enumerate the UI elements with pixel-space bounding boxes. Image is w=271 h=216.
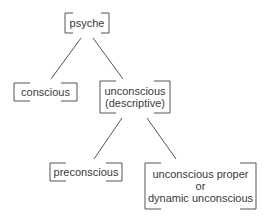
edge-unconscious-proper: [147, 118, 176, 159]
node-label: psyche: [70, 17, 105, 29]
edge-psyche-conscious: [51, 38, 81, 79]
node-preconscious: preconscious: [50, 166, 122, 178]
node-label: preconscious: [54, 166, 119, 178]
node-label: unconscious: [100, 85, 170, 97]
edge-psyche-unconscious: [93, 38, 123, 79]
node-psyche: psyche: [65, 17, 109, 29]
node-unconscious-proper: unconscious proper or dynamic unconsciou…: [145, 168, 256, 204]
node-unconscious-descriptive: unconscious (descriptive): [100, 85, 170, 109]
node-label: dynamic unconscious: [145, 192, 256, 204]
node-label: (descriptive): [100, 97, 170, 109]
edge-unconscious-preconscious: [94, 118, 122, 159]
node-label: conscious: [21, 86, 70, 98]
node-label: unconscious proper: [145, 168, 256, 180]
node-conscious: conscious: [14, 86, 77, 98]
node-label: or: [145, 180, 256, 192]
